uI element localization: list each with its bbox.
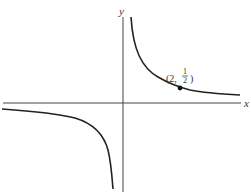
x-axis-label: x (243, 97, 249, 109)
point-marker (178, 86, 183, 91)
y-axis-label: y (118, 5, 124, 17)
hyperbola-chart: x y (2, 1 2 ) (0, 0, 251, 193)
point-label-denominator: 2 (183, 76, 187, 85)
point-label-close: ) (190, 73, 193, 85)
point-label-open: (2, (166, 73, 177, 85)
point-label-numerator: 1 (183, 67, 187, 76)
curve-negative-branch (2, 109, 113, 189)
